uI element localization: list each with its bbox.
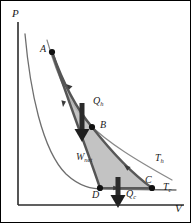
state-point-label-b: B [100, 120, 106, 130]
qh-label: Qh [93, 96, 103, 107]
isotherm-cold-label: Tc [163, 182, 171, 193]
state-point-b-dot [89, 124, 95, 130]
qc-label: Qc [126, 189, 136, 200]
state-point-label-c: C [145, 175, 152, 185]
qc-subscript: c [133, 193, 136, 200]
direction-arrow-da [61, 100, 66, 107]
wnet-subscript: net [84, 156, 92, 163]
x-axis-label: V [175, 203, 182, 214]
tc-subscript: c [169, 186, 172, 193]
qh-subscript: h [100, 100, 103, 107]
process-path-da [52, 52, 100, 188]
state-point-c-dot [149, 185, 155, 191]
th-subscript: h [161, 157, 164, 164]
y-axis-label: P [12, 8, 19, 19]
state-point-a-dot [49, 49, 55, 55]
isotherm-hot-label: Th [155, 153, 164, 164]
state-point-label-a: A [40, 44, 46, 54]
state-point-label-d: D [92, 190, 99, 200]
wnet-label: Wnet [76, 152, 92, 163]
carnot-cycle-figure: P V A B C D Qh Qc Wnet Th Tc [0, 0, 191, 223]
process-path-ab [52, 52, 92, 127]
